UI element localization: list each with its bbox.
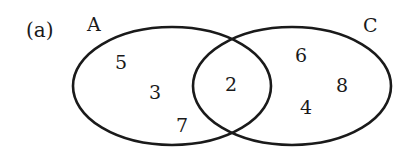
- set-a-ellipse: [73, 27, 271, 145]
- part-label: (a): [26, 18, 54, 42]
- set-c-label: C: [363, 14, 378, 36]
- set-a-label: A: [86, 13, 101, 35]
- set-c-ellipse: [193, 27, 391, 145]
- set-a-element: 7: [176, 114, 188, 136]
- set-c-element: 8: [336, 74, 348, 96]
- intersection-element: 2: [225, 73, 237, 95]
- set-a-element: 5: [115, 51, 127, 73]
- set-c-element: 6: [295, 44, 307, 66]
- venn-diagram: (a) A C 5 3 7 2 6 8 4: [0, 0, 407, 152]
- set-c-element: 4: [300, 96, 312, 118]
- set-a-element: 3: [149, 81, 161, 103]
